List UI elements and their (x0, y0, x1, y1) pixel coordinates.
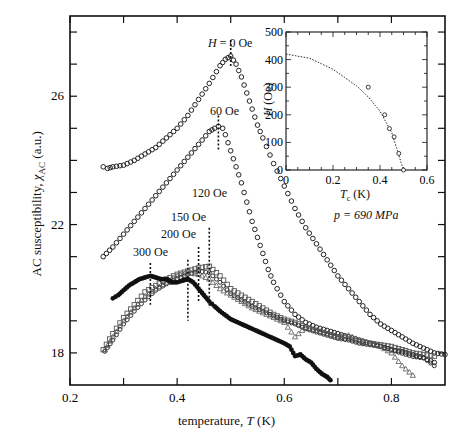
inset-y-variable: H (261, 108, 275, 117)
inset-x-tick-label: 0.4 (373, 173, 388, 187)
inset-x-tick-label: 0 (283, 173, 289, 187)
annotation-200oe: 200 Oe (161, 227, 196, 242)
inset-data-point (402, 168, 406, 172)
y-axis-unit: (a.u.) (29, 131, 44, 162)
pressure-annotation: p = 690 MPa (334, 208, 398, 223)
inset-y-tick-label: 500 (265, 25, 283, 39)
annotation-60oe: 60 Oe (210, 104, 239, 119)
inset-data-point (397, 151, 401, 155)
pressure-text: p = 690 MPa (334, 208, 398, 222)
h0-value: = 0 Oe (217, 36, 253, 50)
inset-y-axis-label: H (Oe) (261, 70, 276, 130)
y-axis-variable: χ (29, 174, 44, 180)
x-tick-label: 0.8 (383, 390, 399, 405)
inset-x-tick-label: 0.2 (326, 173, 341, 187)
inset-data-point (387, 127, 391, 131)
y-axis-subscript: AC (37, 162, 47, 175)
inset-x-variable: T (340, 187, 347, 201)
y-tick-label: 26 (51, 88, 65, 103)
inset-y-unit: (Oe) (261, 83, 275, 108)
x-tick-label: 0.4 (169, 390, 186, 405)
annotation-h0: H = 0 Oe (208, 36, 252, 51)
inset-x-unit: (K) (350, 187, 370, 201)
inset-data-point (383, 113, 387, 117)
annotation-300oe: 300 Oe (133, 245, 168, 260)
annotation-120oe: 120 Oe (192, 186, 227, 201)
annotation-150oe: 150 Oe (171, 210, 206, 225)
h-variable: H (208, 36, 217, 50)
inset-frame (286, 32, 427, 170)
x-tick-label: 0.2 (62, 390, 78, 405)
x-axis-unit: (K) (254, 413, 275, 428)
inset-plot: 00.20.40.60100200300400500 (265, 25, 435, 187)
x-tick-label: 0.6 (276, 390, 293, 405)
y-axis-label: AC susceptibility, χAC (a.u.) (29, 104, 47, 304)
x-axis-variable: T (247, 413, 254, 428)
inset-x-tick-label: 0.6 (420, 173, 435, 187)
inset-data-point (392, 135, 396, 139)
series-200-oe (102, 270, 415, 377)
x-axis-label: temperature, T (K) (178, 413, 275, 429)
y-axis-label-text: AC susceptibility, (29, 180, 44, 276)
y-tick-label: 22 (51, 217, 64, 232)
y-tick-label: 18 (51, 345, 64, 360)
x-axis-label-text: temperature, (178, 413, 247, 428)
inset-x-axis-label: Tc (K) (340, 187, 370, 203)
inset-y-tick-label: 400 (265, 53, 283, 67)
inset-y-tick-label: 100 (265, 135, 283, 149)
inset-data-point (366, 85, 370, 89)
inset-y-tick-label: 0 (277, 163, 283, 177)
